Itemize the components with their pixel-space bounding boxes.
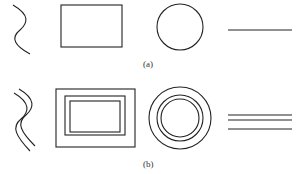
row-a: [13, 4, 292, 54]
figure: (a) (b): [0, 0, 297, 174]
label-a: (a): [143, 59, 153, 69]
inner-rectangle-icon: [70, 101, 120, 132]
middle-circle-icon: [157, 95, 203, 141]
outer-circle-icon: [149, 87, 211, 149]
double-wavy-line-icon: [14, 93, 30, 151]
middle-rectangle-icon: [65, 96, 125, 135]
label-b: (b): [143, 159, 154, 169]
wavy-line-icon: [13, 5, 30, 54]
double-wavy-line-icon-2: [19, 89, 35, 146]
outer-rectangle-icon: [56, 89, 135, 147]
inner-circle-icon: [161, 99, 199, 137]
rectangle-icon: [61, 5, 122, 47]
row-b: [14, 87, 292, 151]
circle-icon: [157, 4, 203, 50]
